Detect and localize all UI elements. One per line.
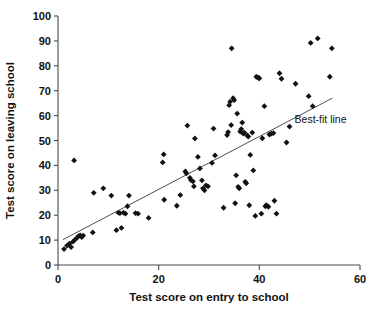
y-tick-label: 60: [39, 110, 51, 122]
y-axis-title: Test score on leaving school: [4, 62, 16, 219]
data-point-marker: [284, 140, 290, 146]
data-point-marker: [199, 177, 205, 183]
data-point-marker: [279, 76, 285, 82]
data-point-marker: [146, 215, 152, 221]
data-point-marker: [90, 229, 96, 235]
data-point-marker: [261, 103, 267, 109]
data-point-marker: [221, 205, 227, 211]
data-point-marker: [232, 200, 238, 206]
data-point-marker: [329, 45, 335, 51]
y-tick-label: 90: [39, 35, 51, 47]
data-point-marker: [308, 40, 314, 46]
x-tick-label: 20: [153, 273, 165, 285]
data-point-marker: [274, 211, 280, 217]
y-tick-label: 20: [39, 209, 51, 221]
x-axis-title: Test score on entry to school: [129, 291, 289, 303]
y-tick-label: 80: [39, 60, 51, 72]
data-point-marker: [174, 203, 180, 209]
y-tick-label: 40: [39, 159, 51, 171]
data-point-marker: [119, 225, 125, 231]
data-point-marker: [212, 153, 218, 159]
data-point-marker: [195, 154, 201, 160]
data-point-marker: [277, 70, 283, 76]
data-point-marker: [239, 120, 245, 126]
data-point-marker: [233, 172, 239, 178]
data-point-marker: [161, 197, 167, 203]
data-point-marker: [246, 202, 252, 208]
data-point-marker: [252, 213, 258, 219]
data-point-marker: [71, 158, 77, 164]
data-point-marker: [191, 183, 197, 189]
x-tick-label: 0: [55, 273, 61, 285]
figure-caption-strip: [0, 314, 379, 322]
data-point-marker: [250, 167, 256, 173]
data-point-marker: [249, 130, 255, 136]
data-point-marker: [315, 36, 321, 42]
y-tick-label: 100: [33, 10, 51, 22]
data-point-marker: [306, 93, 312, 99]
data-point-marker: [209, 160, 215, 166]
data-point-marker: [126, 193, 132, 199]
data-point-marker: [327, 74, 333, 80]
data-point-marker: [160, 160, 166, 166]
y-tick-label: 70: [39, 85, 51, 97]
data-point-marker: [258, 211, 264, 217]
y-tick-label: 10: [39, 234, 51, 246]
data-point-marker: [192, 136, 198, 142]
data-point-marker: [272, 198, 278, 204]
figure-container: 01020304050607080901000204060Best-fit li…: [0, 0, 379, 322]
data-point-marker: [211, 126, 217, 132]
data-point-marker: [310, 103, 316, 109]
x-tick-label: 60: [354, 273, 366, 285]
best-fit-line-label: Best-fit line: [295, 113, 347, 125]
scatter-chart: 01020304050607080901000204060Best-fit li…: [0, 0, 379, 322]
y-tick-label: 30: [39, 184, 51, 196]
x-tick-label: 40: [253, 273, 265, 285]
data-point-marker: [229, 45, 235, 51]
data-point-marker: [234, 111, 240, 117]
data-point-marker: [91, 190, 97, 196]
data-point-marker: [161, 152, 167, 158]
data-point-marker: [113, 227, 119, 233]
data-point-marker: [184, 123, 190, 129]
data-point-marker: [247, 152, 253, 158]
data-point-marker: [108, 193, 114, 199]
data-point-marker: [177, 192, 183, 198]
y-tick-label: 0: [45, 259, 51, 271]
data-point-marker: [287, 124, 293, 130]
data-point-marker: [228, 122, 234, 128]
data-point-marker: [293, 81, 299, 87]
data-point-marker: [100, 185, 106, 191]
y-tick-label: 50: [39, 135, 51, 147]
